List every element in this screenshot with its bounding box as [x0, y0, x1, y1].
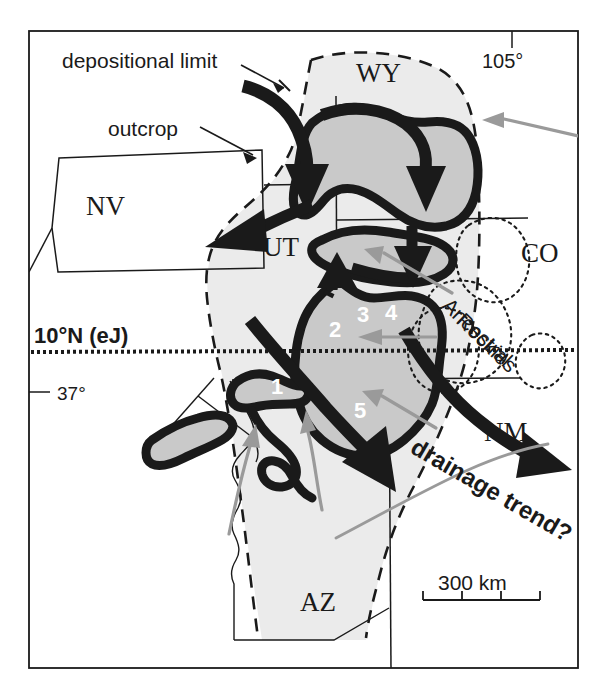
- label-longitude-105: 105°: [482, 50, 523, 72]
- feature-number-1: 1: [271, 374, 283, 399]
- drainage-arrow-mid-up: [328, 292, 330, 296]
- label-latitude-37: 37°: [57, 383, 86, 404]
- label-outcrop: outcrop: [108, 117, 178, 140]
- feature-number-5: 5: [354, 398, 366, 423]
- label-depositional-limit: depositional limit: [62, 49, 217, 72]
- map-canvas: depositional limit outcrop 105° 10°N (eJ…: [0, 0, 608, 689]
- feature-number-2: 2: [329, 317, 341, 342]
- label-paleolatitude: 10°N (eJ): [34, 323, 128, 348]
- state-label-wy: WY: [356, 58, 401, 88]
- feature-number-4: 4: [385, 300, 398, 325]
- paleogeographic-map-figure: depositional limit outcrop 105° 10°N (eJ…: [0, 0, 608, 689]
- state-label-ut: UT: [263, 232, 299, 262]
- state-label-co: CO: [521, 238, 559, 268]
- scale-bar-label: 300 km: [438, 571, 507, 594]
- state-label-nm: NM: [484, 417, 528, 447]
- state-label-az: AZ: [300, 587, 336, 617]
- state-label-nv: NV: [86, 191, 125, 221]
- feature-number-3: 3: [357, 302, 369, 327]
